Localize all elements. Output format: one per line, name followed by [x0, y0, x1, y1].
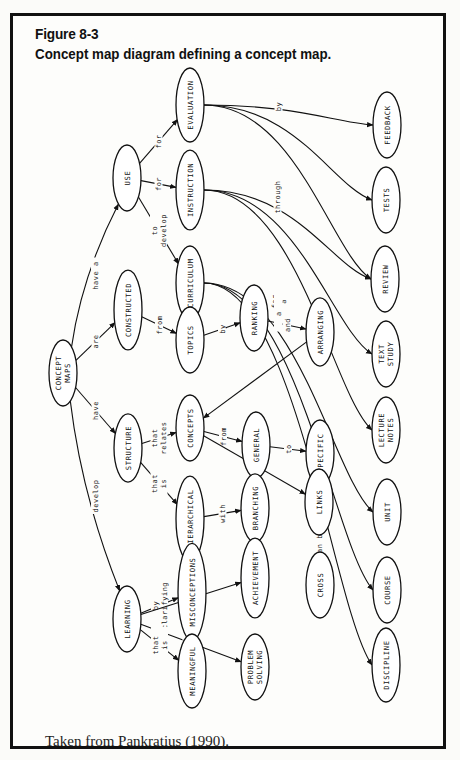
node-label: DISCIPLINE	[382, 640, 391, 689]
node-arranging: ARRANGING	[306, 298, 334, 366]
node-label: MEANINGFUL	[188, 646, 197, 695]
edge-evaluation-to-tests	[204, 105, 372, 200]
node-label: SOLVING	[255, 650, 264, 685]
edge-label: have a	[91, 258, 100, 294]
node-label: TESTS	[382, 188, 391, 213]
edge-label-text: clarifying	[161, 582, 169, 629]
edge-label-text: by	[219, 324, 227, 333]
node-course: COURSE	[373, 557, 401, 623]
node-ranking: RANKING	[240, 285, 268, 351]
edge-label-text: from	[156, 316, 164, 335]
edge-label-text: that	[151, 474, 159, 493]
edge-label: for	[155, 166, 164, 202]
node-review: REVIEW	[371, 246, 399, 312]
node-branching: BRANCHING	[241, 474, 269, 542]
node-concepts: CONCEPTS	[176, 395, 204, 461]
node-label: LEARNING	[123, 599, 132, 638]
edge-label-text: is	[161, 640, 169, 649]
edge-label: by	[275, 89, 284, 125]
edge-label: from	[155, 307, 164, 343]
node-label: REVIEW	[381, 264, 390, 294]
edge-label-text: a	[275, 311, 283, 316]
edge-label: a	[274, 296, 283, 332]
nodes-layer: CONCEPTMAPSUSEEVALUATIONINSTRUCTIONCURRI…	[49, 68, 401, 708]
node-meaningful: MEANINGFUL	[178, 634, 206, 708]
node-label: CONCEPTS	[186, 408, 195, 447]
edge-label: todevelop	[150, 213, 168, 249]
edge-label-text: relates	[160, 421, 168, 454]
node-use: USE	[113, 145, 141, 211]
edge-label-text: through	[274, 181, 282, 214]
edge-label-text: that	[151, 429, 159, 448]
node-constructed: CONSTRUCTED	[114, 270, 142, 350]
edge-label-text: by	[275, 102, 283, 111]
edge-label: to	[284, 431, 293, 467]
edge-instruction-to-review	[204, 190, 371, 279]
edge-label: thatis	[151, 466, 169, 502]
edge-label: develop	[91, 478, 100, 514]
node-label: MISCONCEPTIONS	[188, 558, 197, 627]
node-structure: STRUCTURE	[114, 414, 142, 482]
node-label: ARRANGING	[316, 310, 325, 354]
node-label: NOTES	[386, 418, 395, 443]
node-unit: UNIT	[373, 479, 401, 545]
edge-label-text: for	[155, 134, 163, 148]
node-label: UNIT	[383, 502, 392, 522]
edge-label-text: for	[155, 177, 163, 191]
node-topics: TOPICS	[176, 307, 204, 373]
edge-label-text: to	[151, 226, 159, 235]
node-label: CROSS	[316, 573, 325, 598]
node-label: USE	[123, 171, 132, 186]
node-label: LINKS	[315, 490, 324, 515]
node-tests: TESTS	[372, 167, 400, 233]
node-label: MAPS	[63, 363, 72, 383]
node-label: FEEDBACK	[383, 105, 392, 144]
edge-label-text: develop	[160, 214, 168, 247]
node-label: COURSE	[383, 575, 392, 605]
node-label: TOPICS	[186, 325, 195, 355]
node-label: HIERARCHICAL	[186, 489, 195, 548]
node-label: EVALUATION	[186, 80, 195, 129]
node-feedback: FEEDBACK	[373, 92, 401, 158]
node-cross: CROSS	[306, 552, 334, 618]
node-instruction: INSTRUCTION	[176, 150, 204, 230]
edge-evaluation-to-feedback	[204, 105, 373, 125]
edge-label-text: have a	[92, 261, 100, 289]
node-problem-solving: PROBLEMSOLVING	[241, 634, 269, 700]
node-label: GENERAL	[252, 428, 261, 463]
edge-label-text: with	[219, 504, 227, 523]
edge-label: through	[274, 179, 283, 215]
node-links: LINKS	[305, 469, 333, 535]
node-concept-maps: CONCEPTMAPS	[49, 340, 77, 406]
node-label: INSTRUCTION	[186, 163, 195, 217]
node-label: BRANCHING	[251, 486, 260, 530]
edge-label: byclarifying	[151, 582, 169, 629]
node-label: CURRICULUM	[186, 258, 195, 307]
node-general: GENERAL	[242, 412, 270, 478]
node-lecture-notes: LECTURENOTES	[372, 397, 400, 463]
edge-label: are	[92, 324, 101, 360]
node-label: STUDY	[386, 342, 395, 367]
edge-label: by	[218, 311, 227, 347]
node-label: ACHIEVEMENT	[251, 551, 260, 605]
edge-label: thatrelates	[151, 420, 169, 456]
node-label: SPECIFIC	[316, 433, 325, 472]
edge-label-text: and	[284, 318, 292, 332]
edge-label-text: are	[92, 334, 100, 348]
edge-label-text: that	[152, 636, 160, 655]
edge-label: thatis	[151, 627, 169, 663]
node-learning: LEARNING	[113, 586, 141, 652]
edge-label-text: have	[92, 401, 100, 420]
node-label: RANKING	[250, 301, 259, 336]
edge-label-text: from	[220, 427, 228, 446]
edge-label: with	[219, 496, 228, 532]
edge-label-text: develop	[92, 479, 100, 512]
edge-label-text: to	[285, 444, 293, 453]
edge-arranging-to-concepts	[203, 342, 306, 418]
edge-label: for	[155, 124, 164, 160]
concept-map-diagram: have aarehavedevelopforfortodevelopfromb…	[0, 0, 460, 760]
node-misconceptions: MISCONCEPTIONS	[178, 543, 206, 640]
edge-label: have	[92, 393, 101, 429]
node-label: CONSTRUCTED	[124, 283, 133, 337]
node-achievement: ACHIEVEMENT	[241, 538, 269, 618]
